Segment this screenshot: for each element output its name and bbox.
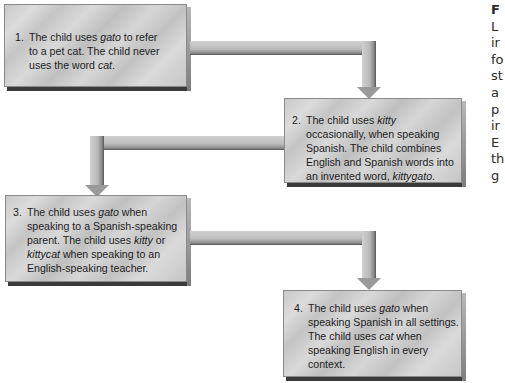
caption-line: g [491, 168, 504, 185]
step-line: kittycat when speaking to an [27, 247, 177, 261]
arrow-head-down-icon [357, 278, 381, 290]
step-box-4: 4. The child uses gato whenspeaking Span… [283, 290, 462, 377]
step-line: The child uses kitty [306, 113, 454, 127]
step-line: speaking to a Spanish-speaking [27, 219, 177, 233]
box-bottom [286, 377, 462, 381]
arrow-shaft-horizontal [90, 136, 284, 150]
step-line: The child uses gato to refer [29, 30, 160, 44]
arrow-shaft-horizontal [190, 41, 376, 55]
step-line: English-speaking teacher. [27, 261, 177, 275]
step-line: parent. The child uses kitty or [27, 233, 177, 247]
step-lines: The child uses gato whenspeaking Spanish… [308, 301, 459, 371]
caption-line: p [491, 102, 504, 119]
step-line: context. [308, 357, 459, 371]
arrow-shaft-horizontal [190, 231, 376, 245]
step-text-3: 3. The child uses gato whenspeaking to a… [13, 205, 177, 275]
caption-line: ir [491, 118, 504, 135]
step-line: The child uses gato when [27, 205, 177, 219]
step-number: 3. [13, 205, 27, 275]
caption-line: th [491, 151, 504, 168]
step-line: to a pet cat. The child never [29, 44, 160, 58]
caption-line: a [491, 85, 504, 102]
step-box-3: 3. The child uses gato whenspeaking to a… [5, 195, 187, 282]
caption-line: F [491, 2, 504, 19]
box-bottom [7, 87, 187, 91]
step-line: an invented word, kittygato. [306, 169, 454, 183]
step-box-1: 1. The child uses gato to referto a pet … [4, 4, 187, 87]
arrow-shaft-vertical [90, 136, 104, 186]
step-line: speaking English in every [308, 343, 459, 357]
caption-line: E [491, 135, 504, 152]
step-lines: The child uses gato to referto a pet cat… [29, 30, 160, 72]
figure-caption-cropped: FLirfostapirEthg [491, 2, 504, 185]
step-line: The child uses gato when [308, 301, 459, 315]
step-text-1: 1. The child uses gato to referto a pet … [15, 30, 160, 72]
caption-line: ir [491, 35, 504, 52]
step-line: The child uses cat when [308, 329, 459, 343]
step-line: Spanish. The child combines [306, 141, 454, 155]
step-line: occasionally, when speaking [306, 127, 454, 141]
box-bottom [287, 183, 462, 187]
caption-line: st [491, 68, 504, 85]
step-lines: The child uses gato whenspeaking to a Sp… [27, 205, 177, 275]
step-box-2: 2. The child uses kittyoccasionally, whe… [284, 98, 462, 183]
arrow-shaft-vertical [362, 41, 376, 88]
step-number: 4. [294, 301, 308, 371]
box-side [462, 293, 466, 381]
caption-line: fo [491, 52, 504, 69]
caption-line: L [491, 19, 504, 36]
box-side [462, 101, 466, 187]
step-line: English and Spanish words into [306, 155, 454, 169]
step-lines: The child uses kittyoccasionally, when s… [306, 113, 454, 183]
step-line: speaking Spanish in all settings. [308, 315, 459, 329]
step-number: 1. [15, 30, 29, 72]
arrow-shaft-vertical [362, 231, 376, 279]
step-text-4: 4. The child uses gato whenspeaking Span… [294, 301, 459, 371]
step-number: 2. [292, 113, 306, 183]
step-text-2: 2. The child uses kittyoccasionally, whe… [292, 113, 454, 183]
step-line: uses the word cat. [29, 58, 160, 72]
box-bottom [8, 282, 187, 286]
